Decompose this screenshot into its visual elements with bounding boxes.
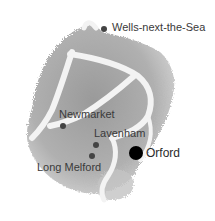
place-label-orford: Orford: [146, 146, 180, 160]
place-dot-newmarket[interactable]: [60, 123, 66, 129]
place-label-wells-next-the-sea: Wells-next-the-Sea: [112, 21, 205, 33]
map: Wells-next-the-Sea Newmarket Lavenham Lo…: [0, 0, 215, 221]
place-label-lavenham: Lavenham: [94, 127, 145, 139]
place-dot-long-melford[interactable]: [89, 153, 95, 159]
place-dot-orford[interactable]: [129, 146, 143, 160]
place-dot-wells-next-the-sea[interactable]: [101, 26, 107, 32]
place-dot-lavenham[interactable]: [93, 142, 99, 148]
place-label-newmarket: Newmarket: [59, 108, 115, 120]
place-label-long-melford: Long Melford: [37, 161, 101, 173]
